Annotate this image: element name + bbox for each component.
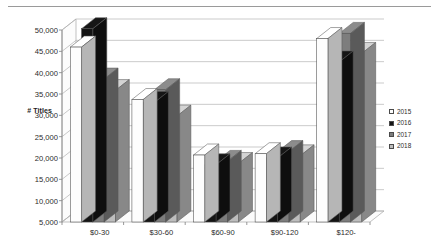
legend-swatch-icon bbox=[389, 121, 394, 126]
x-axis-tick-label: $60-90 bbox=[211, 228, 235, 237]
x-axis-tick-label: $30-60 bbox=[150, 228, 174, 237]
legend-item[interactable]: 2016 bbox=[389, 118, 435, 130]
bar-chart: # Titles 50,00045,00040,00035,00030,0002… bbox=[0, 0, 439, 249]
legend-item-label: 2015 bbox=[397, 109, 411, 115]
legend-item[interactable]: 2015 bbox=[389, 106, 435, 118]
chart-legend: 2015201620172018 bbox=[389, 106, 435, 152]
legend-swatch-icon bbox=[389, 144, 394, 149]
legend-item-label: 2018 bbox=[397, 143, 411, 149]
x-axis-tick-label: $0-30 bbox=[90, 228, 109, 237]
legend-swatch-icon bbox=[389, 132, 394, 137]
plot-area bbox=[0, 0, 439, 249]
x-axis-tick-label: $120- bbox=[336, 228, 355, 237]
legend-item[interactable]: 2018 bbox=[389, 141, 435, 153]
legend-item-label: 2017 bbox=[397, 132, 411, 138]
legend-item[interactable]: 2017 bbox=[389, 129, 435, 141]
legend-item-label: 2016 bbox=[397, 120, 411, 126]
legend-swatch-icon bbox=[389, 109, 394, 114]
x-axis-tick-label: $90-120 bbox=[271, 228, 299, 237]
